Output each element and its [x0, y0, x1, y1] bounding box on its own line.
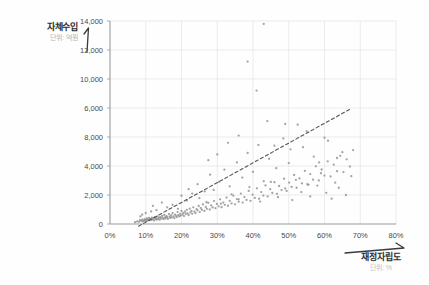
- scatter-point: [259, 200, 261, 202]
- scatter-point: [184, 211, 186, 213]
- scatter-point: [352, 149, 354, 151]
- x-axis-tick-label: 20%: [174, 231, 189, 240]
- scatter-point: [210, 204, 212, 206]
- scatter-point: [171, 212, 173, 214]
- x-axis-tick-label: 40%: [245, 231, 260, 240]
- scatter-point: [350, 175, 352, 177]
- scatter-point: [315, 165, 317, 167]
- scatter-point: [180, 195, 182, 197]
- scatter-point: [145, 212, 147, 214]
- scatter-point: [243, 196, 245, 198]
- scatter-point: [342, 171, 344, 173]
- scatter-point: [254, 197, 256, 199]
- scatter-point: [186, 209, 188, 211]
- scatter-point: [238, 201, 240, 203]
- scatter-point: [246, 60, 248, 62]
- scatter-point: [267, 195, 269, 197]
- scatter-point: [300, 191, 302, 193]
- scatter-point: [183, 215, 185, 217]
- scatter-point: [313, 155, 315, 157]
- scatter-point: [318, 161, 320, 163]
- scatter-point: [295, 179, 297, 181]
- x-axis-tick-label: 70%: [353, 231, 368, 240]
- scatter-point: [163, 214, 165, 216]
- scatter-point: [293, 174, 295, 176]
- scatter-point: [173, 217, 175, 219]
- scatter-point: [198, 205, 200, 207]
- scatter-point: [227, 205, 229, 207]
- scatter-point: [341, 151, 343, 153]
- scatter-point: [241, 176, 243, 178]
- scatter-point: [264, 184, 266, 186]
- scatter-point: [189, 207, 191, 209]
- scatter-point: [141, 214, 143, 216]
- scatter-point: [248, 190, 250, 192]
- scatter-point: [191, 192, 193, 194]
- y-axis-tick-label: 4,000: [84, 162, 103, 171]
- scatter-point: [227, 142, 229, 144]
- scatter-point: [320, 168, 322, 170]
- scatter-point: [225, 196, 227, 198]
- y-axis-tick-label: 14,000: [80, 17, 103, 26]
- scatter-point: [194, 212, 196, 214]
- scatter-point: [222, 201, 224, 203]
- scatter-point: [339, 155, 341, 157]
- scatter-point: [177, 208, 179, 210]
- scatter-point: [230, 193, 232, 195]
- scatter-point: [199, 211, 201, 213]
- scatter-point: [216, 153, 218, 155]
- scatter-point: [216, 203, 218, 205]
- scatter-point: [309, 195, 311, 197]
- scatter-point: [329, 175, 331, 177]
- scatter-point: [312, 178, 314, 180]
- scatter-point: [290, 186, 292, 188]
- x-axis-tick-label: 80%: [388, 231, 403, 240]
- scatter-point: [327, 139, 329, 141]
- y-axis-tick-label: 10,000: [80, 75, 103, 84]
- scatter-point: [316, 184, 318, 186]
- scatter-point: [270, 181, 272, 183]
- scatter-point: [196, 209, 198, 211]
- scatter-point: [203, 210, 205, 212]
- scatter-point: [262, 194, 264, 196]
- scatter-point: [224, 204, 226, 206]
- scatter-point: [288, 162, 290, 164]
- scatter-point: [167, 218, 169, 220]
- scatter-point: [248, 186, 250, 188]
- scatter-point: [258, 198, 260, 200]
- scatter-point: [273, 145, 275, 147]
- scatter-point: [323, 137, 325, 139]
- scatter-point: [209, 208, 211, 210]
- scatter-point: [220, 203, 222, 205]
- scatter-point: [238, 134, 240, 136]
- scatter-point: [209, 174, 211, 176]
- scatter-point: [155, 209, 157, 211]
- scatter-point: [255, 89, 257, 91]
- scatter-point: [229, 200, 231, 202]
- scatter-point: [257, 144, 259, 146]
- scatter-point: [327, 160, 329, 162]
- scatter-point: [150, 210, 152, 212]
- scatter-point: [276, 193, 278, 195]
- scatter-point: [249, 200, 251, 202]
- scatter-point: [204, 190, 206, 192]
- scatter-point: [338, 187, 340, 189]
- scatter-point: [241, 201, 243, 203]
- scatter-point: [268, 158, 270, 160]
- scatter-point: [346, 158, 348, 160]
- scatter-point: [323, 174, 325, 176]
- scatter-point: [213, 200, 215, 202]
- scatter-point: [223, 168, 225, 170]
- scatter-point: [309, 173, 311, 175]
- scatter-chart: 자체수입 단위: 억원 재정자립도 단위: % 14,00012,00010,0…: [0, 0, 429, 285]
- scatter-point: [298, 177, 300, 179]
- x-axis-tick-label: 0%: [105, 231, 116, 240]
- scatter-point: [295, 187, 297, 189]
- scatter-point: [188, 188, 190, 190]
- scatter-point: [336, 170, 338, 172]
- y-axis-tick-label: 6,000: [84, 104, 103, 113]
- scatter-point: [307, 184, 309, 186]
- scatter-point: [284, 187, 286, 189]
- scatter-point: [230, 202, 232, 204]
- scatter-point: [263, 23, 265, 25]
